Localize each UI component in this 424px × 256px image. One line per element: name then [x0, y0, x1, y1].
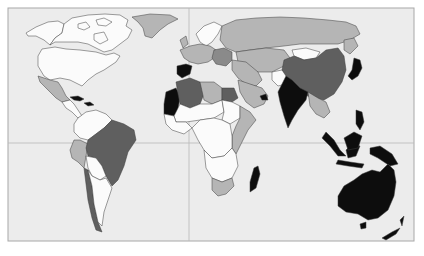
world-map: [0, 0, 424, 256]
world-map-svg: [0, 0, 424, 256]
region-algeria: [176, 78, 204, 108]
